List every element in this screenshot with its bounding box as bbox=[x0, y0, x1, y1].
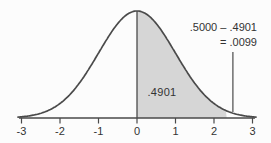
x-tick-label: 2 bbox=[211, 125, 217, 137]
x-tick-label: -1 bbox=[94, 125, 104, 137]
area-label: .4901 bbox=[147, 86, 176, 98]
x-tick-label: 3 bbox=[249, 125, 255, 137]
normal-distribution-figure: -3-2-10123 .5000 – .4901 = .0099 .4901 bbox=[0, 0, 271, 143]
x-ticks: -3-2-10123 bbox=[17, 118, 256, 137]
x-tick-label: -3 bbox=[17, 125, 27, 137]
distribution-chart: -3-2-10123 .5000 – .4901 = .0099 .4901 bbox=[0, 0, 271, 143]
x-tick-label: 0 bbox=[134, 125, 140, 137]
x-tick-label: -2 bbox=[55, 125, 65, 137]
annotation-line-2: = .0099 bbox=[220, 36, 257, 48]
x-tick-label: 1 bbox=[172, 125, 178, 137]
annotation-line-1: .5000 – .4901 bbox=[190, 21, 257, 33]
